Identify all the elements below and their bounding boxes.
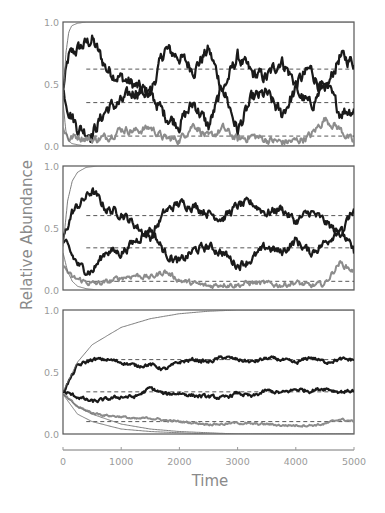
x-axis: 010002000300040005000 <box>60 447 366 467</box>
x-tick-label: 0 <box>60 456 66 467</box>
panels-group: 0.00.51.00.00.51.00.00.51.0 <box>44 17 354 440</box>
x-tick-label: 4000 <box>284 456 308 467</box>
y-tick-label: 0.5 <box>44 79 59 90</box>
y-tick-label: 0.5 <box>44 367 59 378</box>
panel-middle: 0.00.51.0 <box>44 161 354 296</box>
y-tick-label: 0.0 <box>44 285 59 296</box>
y-tick-label: 0.5 <box>44 223 59 234</box>
x-tick-label: 2000 <box>167 456 191 467</box>
y-tick-label: 1.0 <box>44 161 59 172</box>
panel-top: 0.00.51.0 <box>44 17 354 152</box>
panel-bottom: 0.00.51.0 <box>44 305 354 440</box>
x-tick-label: 1000 <box>109 456 133 467</box>
x-tick-label: 3000 <box>226 456 250 467</box>
x-axis-title: Time <box>191 472 229 490</box>
y-tick-label: 0.0 <box>44 429 59 440</box>
panel-frame <box>63 166 354 290</box>
x-tick-label: 5000 <box>342 456 366 467</box>
y-tick-label: 0.0 <box>44 141 59 152</box>
y-tick-label: 1.0 <box>44 17 59 28</box>
figure-canvas: 0.00.51.00.00.51.00.00.51.0 010002000300… <box>0 0 385 513</box>
y-axis-title: Relative Abundance <box>18 160 36 310</box>
y-tick-label: 1.0 <box>44 305 59 316</box>
